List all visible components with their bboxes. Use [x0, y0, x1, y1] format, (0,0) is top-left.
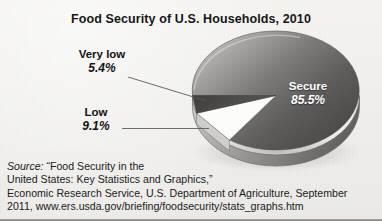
slice-label-very-low: Very low 5.4%	[59, 48, 145, 75]
slice-label-secure-name: Secure	[265, 79, 351, 93]
slice-label-secure-value: 85.5%	[265, 93, 351, 108]
figure-canvas: Food Security of U.S. Households, 2010	[0, 0, 382, 221]
slice-label-very-low-name: Very low	[59, 48, 145, 61]
source-note: Source: “Food Security in the United Sta…	[7, 160, 379, 214]
source-line-3: Economic Research Service, U.S. Departme…	[7, 187, 379, 200]
source-line-1: Source: “Food Security in the	[7, 160, 379, 173]
source-line-1-text: “Food Security in the	[44, 160, 145, 172]
slice-label-very-low-value: 5.4%	[59, 61, 145, 75]
slice-label-secure: Secure 85.5%	[265, 79, 351, 108]
source-line-2: United States: Key Statistics and Graphi…	[7, 173, 379, 186]
source-prefix: Source:	[7, 160, 44, 172]
page-bottom-rule	[0, 219, 382, 221]
slice-label-low: Low 9.1%	[57, 106, 135, 133]
slice-label-low-name: Low	[57, 106, 135, 119]
slice-label-low-value: 9.1%	[57, 119, 135, 133]
source-line-4: 2011, www.ers.usda.gov/briefing/foodsecu…	[7, 200, 379, 213]
